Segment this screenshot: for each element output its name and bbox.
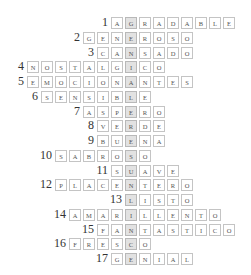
letter-cell[interactable]: S xyxy=(55,150,67,162)
letter-cell[interactable]: N xyxy=(139,135,151,147)
letter-cell[interactable]: D xyxy=(167,47,179,59)
highlighted-letter-cell[interactable]: E xyxy=(125,106,137,118)
highlighted-letter-cell[interactable]: E xyxy=(125,135,137,147)
letter-cell[interactable]: C xyxy=(209,224,221,236)
letter-cell[interactable]: M xyxy=(83,209,95,221)
letter-cell[interactable]: E xyxy=(97,32,109,44)
letter-cell[interactable]: O xyxy=(153,32,165,44)
letter-cell[interactable]: E xyxy=(153,179,165,191)
highlighted-letter-cell[interactable]: N xyxy=(125,179,137,191)
letter-cell[interactable]: I xyxy=(195,224,207,236)
letter-cell[interactable]: I xyxy=(153,253,165,265)
letter-cell[interactable]: T xyxy=(167,194,179,206)
letter-cell[interactable]: O xyxy=(181,32,193,44)
letter-cell[interactable]: N xyxy=(111,76,123,88)
letter-cell[interactable]: E xyxy=(139,91,151,103)
letter-cell[interactable]: F xyxy=(97,224,109,236)
letter-cell[interactable]: N xyxy=(27,61,39,73)
letter-cell[interactable]: R xyxy=(139,32,151,44)
letter-cell[interactable]: S xyxy=(167,32,179,44)
highlighted-letter-cell[interactable]: S xyxy=(125,150,137,162)
letter-cell[interactable]: N xyxy=(139,76,151,88)
letter-cell[interactable]: S xyxy=(153,194,165,206)
letter-cell[interactable]: A xyxy=(111,17,123,29)
letter-cell[interactable]: B xyxy=(83,150,95,162)
letter-cell[interactable]: S xyxy=(97,106,109,118)
letter-cell[interactable]: L xyxy=(209,17,221,29)
letter-cell[interactable]: S xyxy=(111,238,123,250)
letter-cell[interactable]: A xyxy=(83,106,95,118)
highlighted-letter-cell[interactable]: I xyxy=(125,61,137,73)
letter-cell[interactable]: E xyxy=(111,120,123,132)
letter-cell[interactable]: E xyxy=(167,165,179,177)
letter-cell[interactable]: T xyxy=(139,179,151,191)
letter-cell[interactable]: B xyxy=(111,91,123,103)
letter-cell[interactable]: P xyxy=(111,106,123,118)
letter-cell[interactable]: T xyxy=(69,61,81,73)
highlighted-letter-cell[interactable]: E xyxy=(125,253,137,265)
letter-cell[interactable]: F xyxy=(69,238,81,250)
letter-cell[interactable]: O xyxy=(153,106,165,118)
letter-cell[interactable]: O xyxy=(139,238,151,250)
letter-cell[interactable]: O xyxy=(41,61,53,73)
letter-cell[interactable]: E xyxy=(97,238,109,250)
letter-cell[interactable]: E xyxy=(153,120,165,132)
letter-cell[interactable]: N xyxy=(139,253,151,265)
letter-cell[interactable]: R xyxy=(139,17,151,29)
letter-cell[interactable]: C xyxy=(69,76,81,88)
letter-cell[interactable]: R xyxy=(97,150,109,162)
letter-cell[interactable]: O xyxy=(55,76,67,88)
letter-cell[interactable]: G xyxy=(111,61,123,73)
letter-cell[interactable]: O xyxy=(223,224,235,236)
highlighted-letter-cell[interactable]: U xyxy=(125,165,137,177)
letter-cell[interactable]: B xyxy=(97,135,109,147)
letter-cell[interactable]: D xyxy=(167,17,179,29)
letter-cell[interactable]: S xyxy=(111,165,123,177)
letter-cell[interactable]: O xyxy=(139,150,151,162)
letter-cell[interactable]: S xyxy=(167,224,179,236)
letter-cell[interactable]: L xyxy=(139,209,151,221)
letter-cell[interactable]: A xyxy=(111,224,123,236)
letter-cell[interactable]: I xyxy=(97,91,109,103)
letter-cell[interactable]: L xyxy=(181,253,193,265)
letter-cell[interactable]: L xyxy=(153,209,165,221)
highlighted-letter-cell[interactable]: R xyxy=(125,120,137,132)
letter-cell[interactable]: S xyxy=(41,91,53,103)
letter-cell[interactable]: L xyxy=(97,61,109,73)
letter-cell[interactable]: A xyxy=(153,224,165,236)
highlighted-letter-cell[interactable]: A xyxy=(125,76,137,88)
letter-cell[interactable]: T xyxy=(153,76,165,88)
letter-cell[interactable]: T xyxy=(181,224,193,236)
letter-cell[interactable]: E xyxy=(55,91,67,103)
letter-cell[interactable]: E xyxy=(167,76,179,88)
letter-cell[interactable]: P xyxy=(55,179,67,191)
letter-cell[interactable]: R xyxy=(139,106,151,118)
letter-cell[interactable]: I xyxy=(139,194,151,206)
letter-cell[interactable]: O xyxy=(181,194,193,206)
letter-cell[interactable]: C xyxy=(97,47,109,59)
letter-cell[interactable]: A xyxy=(83,179,95,191)
letter-cell[interactable]: A xyxy=(167,253,179,265)
letter-cell[interactable]: G xyxy=(111,253,123,265)
letter-cell[interactable]: A xyxy=(111,47,123,59)
letter-cell[interactable]: O xyxy=(97,76,109,88)
letter-cell[interactable]: O xyxy=(181,47,193,59)
highlighted-letter-cell[interactable]: N xyxy=(125,224,137,236)
letter-cell[interactable]: A xyxy=(139,165,151,177)
letter-cell[interactable]: M xyxy=(41,76,53,88)
letter-cell[interactable]: G xyxy=(83,32,95,44)
letter-cell[interactable]: A xyxy=(97,209,109,221)
letter-cell[interactable]: S xyxy=(55,61,67,73)
letter-cell[interactable]: B xyxy=(195,17,207,29)
letter-cell[interactable]: E xyxy=(223,17,235,29)
letter-cell[interactable]: O xyxy=(181,179,193,191)
letter-cell[interactable]: I xyxy=(83,76,95,88)
letter-cell[interactable]: C xyxy=(139,61,151,73)
letter-cell[interactable]: A xyxy=(153,17,165,29)
letter-cell[interactable]: O xyxy=(153,61,165,73)
letter-cell[interactable]: O xyxy=(209,209,221,221)
letter-cell[interactable]: S xyxy=(139,47,151,59)
letter-cell[interactable]: U xyxy=(111,135,123,147)
letter-cell[interactable]: A xyxy=(83,61,95,73)
letter-cell[interactable]: N xyxy=(111,32,123,44)
